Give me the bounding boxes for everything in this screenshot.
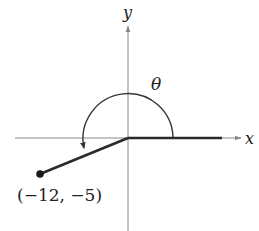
angle-label: θ bbox=[151, 74, 161, 94]
angle-diagram: y x θ (−12, −5) bbox=[0, 0, 259, 231]
terminal-point-dot bbox=[36, 170, 44, 178]
terminal-side bbox=[40, 138, 128, 174]
x-axis-label: x bbox=[245, 129, 254, 148]
y-axis-label: y bbox=[122, 3, 133, 22]
terminal-point-label: (−12, −5) bbox=[17, 185, 102, 205]
